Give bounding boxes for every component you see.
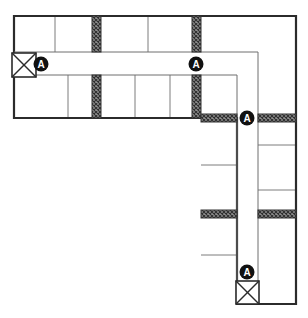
- section-marker-a-1: A: [34, 57, 49, 72]
- joint-vertical-3: [192, 16, 201, 52]
- joint-horizontal-4: [258, 210, 296, 218]
- joint-vertical-2: [92, 75, 101, 118]
- floor-plan-diagram: AAAA: [0, 0, 308, 318]
- corridor-layer: [14, 52, 258, 304]
- building-outline: [14, 16, 296, 304]
- joint-vertical-1: [92, 16, 101, 52]
- joint-horizontal-3: [201, 210, 237, 218]
- corridor-path: [14, 52, 258, 304]
- section-marker-a-1-label: A: [37, 59, 44, 70]
- section-marker-a-4-label: A: [243, 267, 250, 278]
- shaft-symbols-layer: [12, 53, 259, 304]
- joint-vertical-4: [192, 75, 201, 118]
- section-marker-a-2: A: [189, 57, 204, 72]
- joint-horizontal-2: [258, 114, 296, 122]
- section-markers-layer: AAAA: [34, 57, 255, 280]
- floor-plan-canvas: AAAA: [0, 0, 308, 318]
- section-marker-a-3-label: A: [243, 113, 250, 124]
- section-marker-a-3: A: [240, 111, 255, 126]
- section-marker-a-4: A: [240, 265, 255, 280]
- building-outline-layer: [14, 16, 296, 304]
- joint-horizontal-1: [201, 114, 237, 122]
- section-marker-a-2-label: A: [192, 59, 199, 70]
- shaft-symbol-top-left: [12, 53, 36, 77]
- shaft-symbol-bottom-right: [236, 281, 259, 304]
